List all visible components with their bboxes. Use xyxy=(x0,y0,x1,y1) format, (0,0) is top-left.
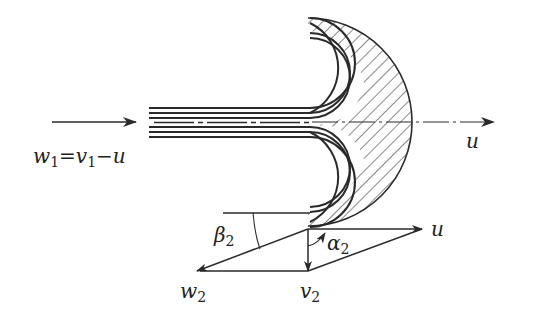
beta2-arc xyxy=(253,213,260,249)
w2-label: w2 xyxy=(180,279,206,305)
inlet-relation-label: w1=v1−u xyxy=(33,144,126,170)
alpha2-label: α2 xyxy=(327,231,349,257)
alpha2-arc xyxy=(308,233,325,246)
beta2-label: β2 xyxy=(213,223,234,249)
bucket-velocity-label: u xyxy=(466,129,479,153)
pelton-bucket-diagram: w1=v1−u u u β2 α2 w2 v2 xyxy=(0,0,542,320)
triangle-u-label: u xyxy=(431,217,444,241)
v2-label: v2 xyxy=(300,279,320,305)
jet-streamlines xyxy=(149,108,310,137)
closing-line-diagonal xyxy=(308,229,422,271)
